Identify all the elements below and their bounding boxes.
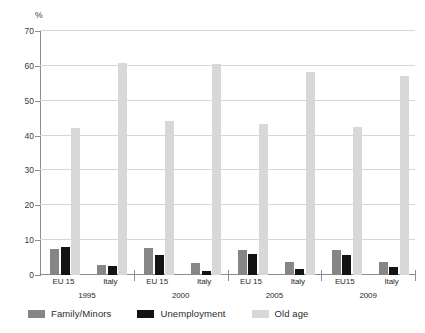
plot-area — [40, 31, 415, 275]
legend-swatch-family-minors — [28, 310, 45, 318]
y-tick-30 — [35, 170, 40, 171]
bar-family-minors-1 — [97, 265, 106, 275]
legend-label-family-minors: Family/Minors — [51, 308, 111, 319]
y-tick-40 — [35, 136, 40, 137]
bar-unemployment-0 — [61, 247, 70, 275]
bar-family-minors-5 — [285, 262, 294, 275]
bar-old-age-3 — [212, 64, 221, 275]
legend-item-old-age: Old age — [252, 308, 309, 319]
y-tick-70 — [35, 31, 40, 32]
bar-unemployment-1 — [108, 266, 117, 275]
bar-unemployment-6 — [342, 255, 351, 275]
y-tick-50 — [35, 101, 40, 102]
legend-label-old-age: Old age — [275, 308, 309, 319]
y-tick-label-0: 0 — [14, 271, 34, 280]
x-axis-group-separator-2 — [228, 270, 229, 281]
grouped-bar-chart: % 706050403020100 EU 15ItalyEU 15ItalyEU… — [0, 0, 425, 333]
chart-legend: Family/Minors Unemployment Old age — [28, 308, 335, 319]
y-tick-0 — [35, 275, 40, 276]
x-axis-group-separator-3 — [321, 270, 322, 281]
x-axis-year-label-1995: 1995 — [47, 291, 127, 300]
bar-family-minors-4 — [238, 250, 247, 275]
x-axis-group-separator-1 — [134, 270, 135, 281]
x-axis-category-label-7: Italy — [362, 277, 422, 286]
y-axis-tick-labels: 706050403020100 — [8, 0, 34, 333]
y-tick-label-20: 20 — [14, 201, 34, 210]
bar-old-age-5 — [306, 72, 315, 275]
bar-family-minors-7 — [379, 262, 388, 275]
x-axis-year-label-2000: 2000 — [141, 291, 221, 300]
gridline-60 — [40, 65, 415, 66]
legend-swatch-unemployment — [137, 310, 154, 318]
y-tick-label-50: 50 — [14, 97, 34, 106]
bar-old-age-4 — [259, 124, 268, 275]
y-tick-label-40: 40 — [14, 132, 34, 141]
bar-family-minors-2 — [144, 248, 153, 275]
y-axis-unit-label: % — [35, 10, 43, 20]
bar-family-minors-3 — [191, 263, 200, 275]
y-tick-20 — [35, 205, 40, 206]
bar-unemployment-5 — [295, 269, 304, 275]
y-tick-label-70: 70 — [14, 27, 34, 36]
bar-old-age-2 — [165, 121, 174, 275]
legend-item-family-minors: Family/Minors — [28, 308, 111, 319]
bar-family-minors-6 — [332, 250, 341, 275]
x-axis-year-label-2005: 2005 — [234, 291, 314, 300]
y-tick-10 — [35, 240, 40, 241]
legend-item-unemployment: Unemployment — [137, 308, 225, 319]
legend-swatch-old-age — [252, 310, 269, 318]
bar-unemployment-2 — [155, 255, 164, 275]
bar-old-age-0 — [71, 128, 80, 275]
legend-label-unemployment: Unemployment — [160, 308, 225, 319]
y-tick-label-10: 10 — [14, 236, 34, 245]
gridline-70 — [40, 30, 415, 31]
bar-old-age-6 — [353, 127, 362, 275]
y-tick-label-60: 60 — [14, 62, 34, 71]
bar-unemployment-3 — [202, 271, 211, 275]
bar-family-minors-0 — [50, 249, 59, 275]
bar-old-age-7 — [400, 76, 409, 275]
x-axis-group-separator-end — [415, 270, 416, 281]
bar-old-age-1 — [118, 63, 127, 275]
y-tick-60 — [35, 66, 40, 67]
gridline-50 — [40, 100, 415, 101]
y-tick-label-30: 30 — [14, 166, 34, 175]
bar-unemployment-4 — [248, 254, 257, 275]
x-axis-year-label-2009: 2009 — [328, 291, 408, 300]
bar-unemployment-7 — [389, 267, 398, 275]
